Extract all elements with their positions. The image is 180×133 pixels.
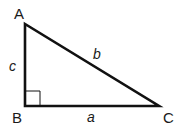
triangle-abc <box>25 24 159 106</box>
vertex-label-b: B <box>12 109 22 126</box>
side-label-b: b <box>93 46 101 62</box>
right-triangle-diagram: A B C c b a <box>0 0 180 133</box>
vertex-label-a: A <box>14 5 24 22</box>
vertex-label-c: C <box>163 109 174 126</box>
side-label-c: c <box>9 58 16 74</box>
right-angle-marker <box>25 91 40 106</box>
side-label-a: a <box>87 109 95 125</box>
